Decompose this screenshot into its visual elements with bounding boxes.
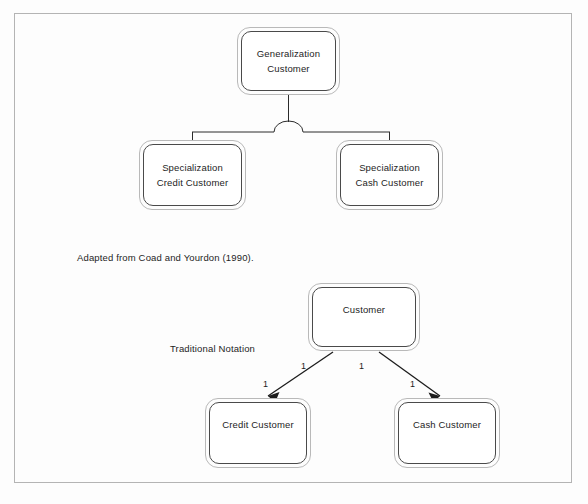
source-caption: Adapted from Coad and Yourdon (1990). [77, 251, 254, 265]
node-label-line1: Customer [313, 302, 415, 317]
node-label-line2: Credit Customer [144, 175, 241, 190]
node-text: Cash Customer [399, 417, 495, 432]
node-text: Credit Customer [210, 417, 306, 432]
node-text: Customer [313, 302, 415, 317]
node-inner-border: Generalization Customer [241, 31, 336, 91]
node-label-line2: Cash Customer [341, 175, 438, 190]
node-text: Specialization Cash Customer [341, 160, 438, 190]
node-inner-border: Customer [312, 287, 416, 347]
node-cash-customer[interactable]: Cash Customer [394, 398, 500, 468]
traditional-notation-label: Traditional Notation [170, 342, 255, 356]
multiplicity-parent-left: 1 [301, 361, 306, 371]
node-label-line2: Customer [242, 61, 335, 76]
multiplicity-child-right: 1 [410, 379, 415, 389]
node-credit-customer[interactable]: Credit Customer [205, 398, 311, 468]
node-inner-border: Specialization Cash Customer [340, 144, 439, 206]
generalization-connector [192, 95, 390, 140]
node-inner-border: Cash Customer [398, 402, 496, 464]
multiplicity-parent-right: 1 [359, 361, 364, 371]
multiplicity-child-left: 1 [263, 379, 268, 389]
node-inner-border: Specialization Credit Customer [143, 144, 242, 206]
node-customer[interactable]: Customer [308, 283, 420, 351]
node-generalization-customer[interactable]: Generalization Customer [237, 27, 340, 95]
node-label-line1: Generalization [242, 46, 335, 61]
traditional-connector [268, 352, 440, 403]
node-label-line1: Cash Customer [399, 417, 495, 432]
node-label-line1: Specialization [341, 160, 438, 175]
document-page: Generalization Customer Specialization C… [0, 0, 588, 504]
node-text: Specialization Credit Customer [144, 160, 241, 190]
node-text: Generalization Customer [242, 46, 335, 76]
node-specialization-cash-customer[interactable]: Specialization Cash Customer [336, 140, 443, 210]
node-inner-border: Credit Customer [209, 402, 307, 464]
node-label-line1: Credit Customer [210, 417, 306, 432]
node-label-line1: Specialization [144, 160, 241, 175]
node-specialization-credit-customer[interactable]: Specialization Credit Customer [139, 140, 246, 210]
